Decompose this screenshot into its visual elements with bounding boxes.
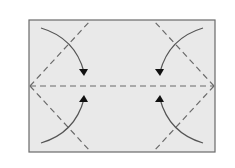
fold-diagram <box>0 0 235 168</box>
diagram-canvas <box>0 0 235 168</box>
